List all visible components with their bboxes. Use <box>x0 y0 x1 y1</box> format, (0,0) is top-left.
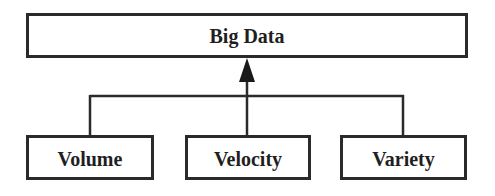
root-node-big-data: Big Data <box>26 13 468 58</box>
child-node-label: Velocity <box>214 148 282 171</box>
child-node-variety: Variety <box>340 135 467 180</box>
arrow-up-icon <box>239 58 255 82</box>
child-node-label: Variety <box>372 148 435 171</box>
big-data-diagram: Big Data Volume Velocity Variety <box>0 0 495 196</box>
child-node-velocity: Velocity <box>185 135 311 180</box>
root-node-label: Big Data <box>210 25 285 48</box>
child-node-volume: Volume <box>26 135 154 180</box>
child-node-label: Volume <box>58 148 123 171</box>
